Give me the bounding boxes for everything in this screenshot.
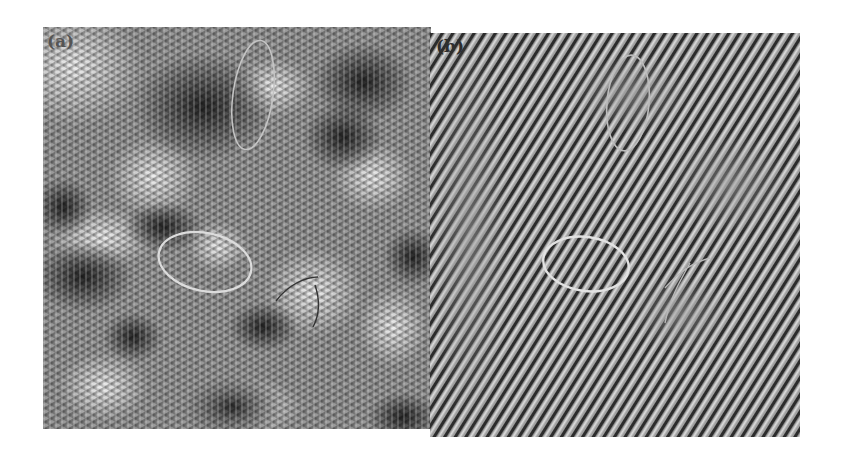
panel-b-filtered-image: (b)	[430, 33, 800, 437]
filtered-image-b	[430, 33, 800, 437]
panel-a-hrtem-image: (a)	[43, 27, 431, 429]
hrtem-image-a	[43, 27, 431, 429]
panel-label-b: (b)	[436, 36, 464, 56]
panel-label-a: (a)	[47, 31, 74, 51]
figure: (a) (b)	[0, 0, 843, 455]
